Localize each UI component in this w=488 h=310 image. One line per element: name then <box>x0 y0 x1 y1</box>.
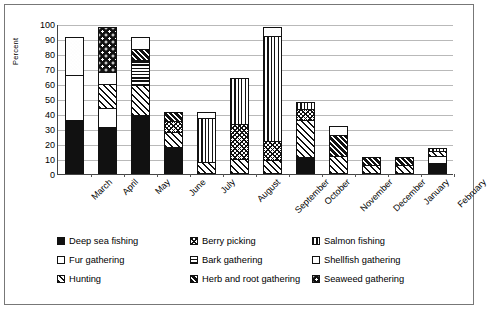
segment-berry <box>165 122 182 133</box>
y-tick-90: 90 <box>31 36 55 44</box>
y-tick-50: 50 <box>31 96 55 104</box>
y-tick-40: 40 <box>31 111 55 119</box>
stacked-bar-march[interactable] <box>65 37 84 174</box>
legend-label: Bark gathering <box>202 255 262 265</box>
plot-area: Percent 1009080706050403020100 MarchApri… <box>5 5 475 200</box>
segment-shell <box>66 38 83 76</box>
bar-slot-december <box>355 24 388 174</box>
stacked-bar-april[interactable] <box>98 27 117 175</box>
segment-shell <box>198 113 215 119</box>
x-tick-label-february: February <box>455 177 488 210</box>
legend-label: Seaweed gathering <box>324 274 404 284</box>
segment-salmon <box>429 149 446 152</box>
x-axis-tick-labels: MarchAprilMayJuneJulyAugustSeptemberOcto… <box>57 177 453 225</box>
x-tick-label-november: November <box>358 177 394 213</box>
segment-hunt <box>99 85 116 109</box>
x-tick-label-august: August <box>255 177 282 204</box>
segment-berry <box>264 142 281 162</box>
x-tick-label-april: April <box>120 177 140 197</box>
segment-shell <box>132 38 149 50</box>
y-tick-10: 10 <box>31 156 55 164</box>
y-axis-tick-labels: 1009080706050403020100 <box>31 25 55 175</box>
stacked-bar-may[interactable] <box>131 37 150 174</box>
chart-legend: Deep sea fishingBerry pickingSalmon fish… <box>57 236 452 292</box>
bar-group <box>58 24 453 174</box>
segment-deep <box>66 121 83 174</box>
segment-seaweed <box>99 28 116 73</box>
segment-herb <box>396 158 413 166</box>
stacked-bar-june[interactable] <box>164 112 183 174</box>
stacked-bar-january[interactable] <box>395 157 414 174</box>
legend-item-herb[interactable]: Herb and root gathering <box>190 274 300 284</box>
axes <box>57 25 453 175</box>
stacked-bar-august[interactable] <box>230 78 249 175</box>
segment-hunt <box>264 161 281 173</box>
segment-hunt <box>231 160 248 174</box>
bar-slot-april <box>91 24 124 174</box>
stacked-bar-november[interactable] <box>329 126 348 175</box>
y-axis-label: Percent <box>11 5 20 65</box>
legend-label: Fur gathering <box>69 255 124 265</box>
legend-swatch-seaweed-icon <box>312 275 320 283</box>
segment-hunt <box>363 166 380 174</box>
legend-label: Deep sea fishing <box>69 236 138 246</box>
bar-slot-march <box>58 24 91 174</box>
stacked-bar-september[interactable] <box>263 27 282 175</box>
segment-hunt <box>396 166 413 174</box>
segment-shell <box>264 28 281 37</box>
stacked-bar-december[interactable] <box>362 157 381 174</box>
x-tick-label-december: December <box>391 177 427 213</box>
segment-hunt <box>429 152 446 157</box>
segment-hunt <box>330 157 347 174</box>
segment-deep <box>99 128 116 173</box>
segment-salmon <box>297 103 314 111</box>
bar-slot-february <box>421 24 454 174</box>
y-tick-0: 0 <box>31 171 55 179</box>
segment-shell <box>330 127 347 136</box>
bar-slot-january <box>388 24 421 174</box>
legend-label: Berry picking <box>202 236 256 246</box>
x-tick-label-june: June <box>186 177 207 198</box>
legend-item-hunt[interactable]: Hunting <box>57 274 101 284</box>
segment-hunt <box>165 133 182 148</box>
stacked-bar-july[interactable] <box>197 112 216 174</box>
legend-swatch-salmon-icon <box>312 237 320 245</box>
legend-swatch-hunt-icon <box>57 275 65 283</box>
legend-swatch-herb-icon <box>190 275 198 283</box>
segment-berry <box>231 125 248 160</box>
bar-slot-october <box>289 24 322 174</box>
y-tick-80: 80 <box>31 51 55 59</box>
bar-slot-june <box>157 24 190 174</box>
segment-berry <box>297 110 314 121</box>
legend-label: Salmon fishing <box>324 236 385 246</box>
stacked-bar-february[interactable] <box>428 148 447 174</box>
legend-swatch-deep-icon <box>57 237 65 245</box>
bar-slot-september <box>256 24 289 174</box>
segment-fur <box>66 76 83 121</box>
segment-hunt <box>198 163 215 174</box>
x-tick-label-may: May <box>152 177 171 196</box>
x-tick-mark <box>454 174 455 177</box>
segment-hunt <box>297 121 314 159</box>
stacked-bar-october[interactable] <box>296 102 315 175</box>
segment-salmon <box>198 119 215 163</box>
segment-shell <box>99 73 116 85</box>
y-tick-60: 60 <box>31 81 55 89</box>
legend-item-bark[interactable]: Bark gathering <box>190 255 262 265</box>
segment-fur <box>429 157 446 165</box>
segment-deep <box>165 148 182 174</box>
legend-item-deep[interactable]: Deep sea fishing <box>57 236 138 246</box>
segment-herb <box>330 136 347 157</box>
legend-item-seaweed[interactable]: Seaweed gathering <box>312 274 404 284</box>
legend-item-berry[interactable]: Berry picking <box>190 236 256 246</box>
legend-item-salmon[interactable]: Salmon fishing <box>312 236 385 246</box>
segment-herb <box>165 113 182 122</box>
segment-herb <box>132 50 149 61</box>
bar-slot-may <box>124 24 157 174</box>
x-tick-label-july: July <box>218 177 236 195</box>
legend-item-fur[interactable]: Fur gathering <box>57 255 124 265</box>
legend-item-shell[interactable]: Shellfish gathering <box>312 255 401 265</box>
segment-salmon <box>231 79 248 126</box>
segment-deep <box>132 116 149 173</box>
bar-slot-august <box>223 24 256 174</box>
